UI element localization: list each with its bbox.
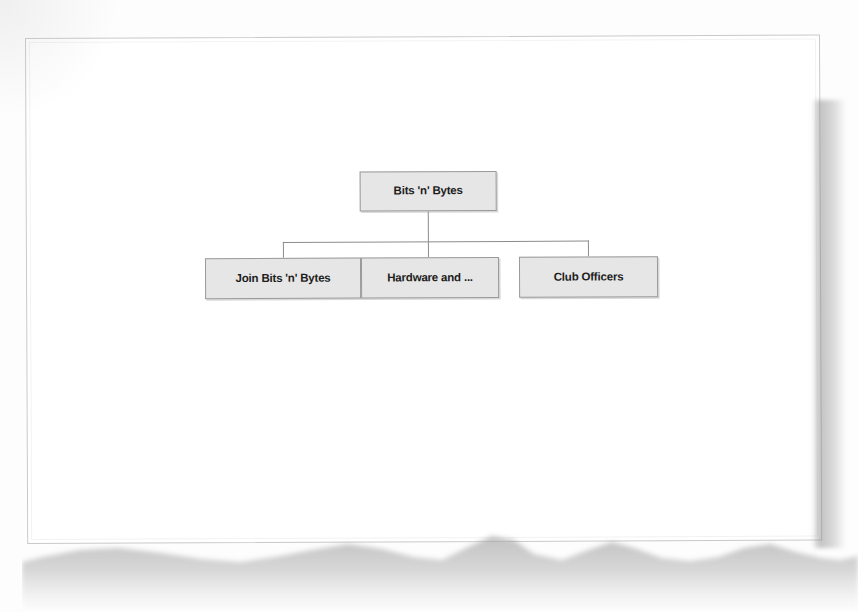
connector-drop-child-2 [428, 241, 429, 257]
diagram-node-club-officers[interactable]: Club Officers [519, 256, 658, 298]
diagram-node-hardware-and[interactable]: Hardware and ... [361, 257, 499, 299]
site-map-diagram: Bits 'n' Bytes Join Bits 'n' Bytes Hardw… [26, 36, 823, 545]
diagram-node-root[interactable]: Bits 'n' Bytes [360, 171, 497, 212]
page-sheet: Bits 'n' Bytes Join Bits 'n' Bytes Hardw… [25, 35, 822, 544]
diagram-node-child-2-label: Hardware and ... [387, 272, 473, 284]
diagram-node-child-1-label: Join Bits 'n' Bytes [236, 272, 331, 284]
connector-drop-child-3 [588, 241, 589, 257]
diagram-node-join-bits-n-bytes[interactable]: Join Bits 'n' Bytes [205, 258, 361, 300]
diagram-node-root-label: Bits 'n' Bytes [394, 185, 463, 197]
diagram-node-child-3-label: Club Officers [554, 271, 624, 283]
scanned-page-screenshot: Bits 'n' Bytes Join Bits 'n' Bytes Hardw… [0, 0, 858, 612]
connector-root-drop [428, 211, 429, 241]
connector-drop-child-1 [283, 242, 284, 258]
connector-horizontal-bus [283, 241, 589, 243]
